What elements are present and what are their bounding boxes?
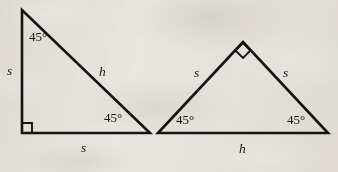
right-triangle-angle-bottom-left-label: 45° bbox=[176, 113, 194, 126]
right-triangle-hypotenuse-label: h bbox=[239, 142, 246, 156]
triangles-figure bbox=[0, 0, 338, 172]
left-triangle-horizontal-leg-label: s bbox=[81, 141, 86, 155]
left-triangle-hypotenuse-label: h bbox=[99, 65, 106, 79]
left-triangle-right-angle-icon bbox=[22, 123, 32, 133]
right-triangle-right-angle-icon bbox=[236, 43, 251, 58]
left-triangle-angle-bottom-right-label: 45° bbox=[104, 111, 122, 124]
left-triangle-vertical-leg-label: s bbox=[7, 64, 12, 78]
left-triangle-angle-top-label: 45° bbox=[29, 30, 47, 43]
figure-canvas: 45° 45° s s h 45° 45° s s h bbox=[0, 0, 338, 172]
right-triangle-angle-bottom-right-label: 45° bbox=[287, 113, 305, 126]
right-triangle-left-leg-label: s bbox=[194, 66, 199, 80]
right-triangle-right-leg-label: s bbox=[283, 66, 288, 80]
